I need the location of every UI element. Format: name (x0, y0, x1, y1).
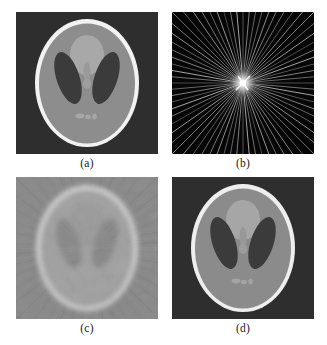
phantom-a-svg (16, 12, 158, 154)
panel-b-caption: (b) (172, 157, 314, 169)
panel-d-caption: (d) (172, 322, 314, 334)
blurred-recon-svg (16, 177, 158, 319)
radial-star-svg (172, 12, 314, 154)
panel-d-image (172, 177, 314, 319)
panel-c-blurred-reconstruction (16, 177, 158, 319)
panel-a-image (16, 12, 158, 154)
panel-d-reconstruction (172, 177, 314, 319)
panel-b-image (172, 12, 314, 154)
panel-c-image (16, 177, 158, 319)
phantom-d-svg (172, 177, 314, 319)
panel-b-radial-sampling (172, 12, 314, 154)
panel-c-caption: (c) (16, 322, 158, 334)
figure-container: (a) (0, 0, 327, 345)
panel-a-phantom-original (16, 12, 158, 154)
panel-a-caption: (a) (16, 157, 158, 169)
